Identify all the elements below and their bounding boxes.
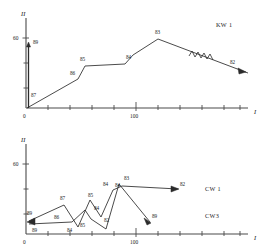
up-arrow-head-top xyxy=(27,42,31,47)
chart-svg-bottom: 89 87 86 85 84 84 83 82 89 84 85 84 82 8… xyxy=(0,126,267,252)
x-tick-label-0-bottom: 0 xyxy=(23,239,26,245)
point-label-85-top: 85 xyxy=(80,56,86,62)
point-label-86-bottom: 86 xyxy=(54,214,60,220)
two-panel-line-chart-figure: 89 87 86 85 84 83 82 60 0 100 II I KW 1 xyxy=(0,0,267,252)
chart-panel-top: 89 87 86 85 84 83 82 60 0 100 II I KW 1 xyxy=(0,0,267,126)
point-label-82-top: 82 xyxy=(230,59,236,65)
point-label-84-bottom-b: 84 xyxy=(115,182,121,188)
point-label-84-bottom-a: 84 xyxy=(103,181,109,187)
series-legend-cw1: CW 1 xyxy=(205,185,221,192)
chart-panel-bottom: 89 87 86 85 84 84 83 82 89 84 85 84 82 8… xyxy=(0,126,267,252)
right-arrow-head-top xyxy=(238,68,246,74)
x-tick-label-0-top: 0 xyxy=(23,113,26,119)
point-label-83-top: 83 xyxy=(155,29,161,35)
point-label-85-bottom-a: 85 xyxy=(88,192,94,198)
series-line-cw3 xyxy=(29,184,150,229)
point-label-89-top: 89 xyxy=(33,39,39,45)
right-arrow-head-cw1 xyxy=(171,186,179,192)
series-legend-cw3: CW3 xyxy=(205,212,219,219)
point-label-85-bottom-b: 84 xyxy=(94,205,100,211)
x-axis-label-top: I xyxy=(253,108,257,115)
point-label-89-bottom-a: 89 xyxy=(27,210,33,216)
point-label-87-top: 87 xyxy=(31,92,37,98)
point-label-86-top: 86 xyxy=(70,70,76,76)
chart-svg-top: 89 87 86 85 84 83 82 60 0 100 II I KW 1 xyxy=(0,0,267,126)
y-tick-label-60-bottom: 60 xyxy=(13,161,19,167)
point-label-83-bottom: 83 xyxy=(124,175,130,181)
point-label-82-bottom-a: 82 xyxy=(180,181,186,187)
point-label-84-bottom-c: 85 xyxy=(80,222,86,228)
point-label-82-bottom-b: 89 xyxy=(152,213,158,219)
x-tick-label-100-bottom: 100 xyxy=(130,239,138,245)
y-axis-label-bottom: II xyxy=(20,136,26,143)
point-label-87-bottom: 87 xyxy=(60,195,66,201)
point-label-89-bottom-c: 84 xyxy=(67,227,73,233)
point-label-89-bottom-b: 89 xyxy=(32,227,38,233)
x-tick-label-100-top: 100 xyxy=(130,113,138,119)
point-label-84-bottom-d: 82 xyxy=(104,217,110,223)
y-axis-label-top: II xyxy=(20,10,26,17)
y-tick-label-60-top: 60 xyxy=(13,35,19,41)
series-legend-kw1: KW 1 xyxy=(216,21,232,28)
point-label-84-top: 84 xyxy=(126,54,132,60)
x-axis-label-bottom: I xyxy=(253,234,257,241)
series-line-kw1 xyxy=(27,39,248,108)
